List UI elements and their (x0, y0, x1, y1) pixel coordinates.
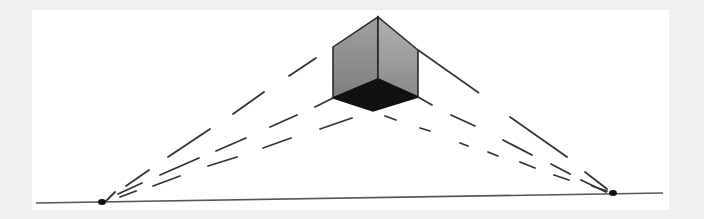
right-construction-lines (385, 97, 607, 192)
construction-line (418, 50, 479, 93)
cube (333, 17, 418, 111)
perspective-drawing (0, 0, 704, 219)
right-vanishing-point (609, 190, 617, 196)
left-vanishing-point (98, 199, 106, 205)
left-construction-lines (106, 58, 352, 201)
horizon-line (36, 193, 663, 203)
